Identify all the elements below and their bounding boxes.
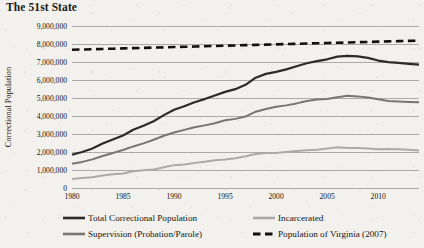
y-tick-label: 4,000,000 bbox=[37, 112, 68, 121]
legend-label: Total Correctional Population bbox=[88, 213, 197, 223]
x-tick-label: 1995 bbox=[217, 192, 232, 201]
y-axis-title: Correctional Population bbox=[4, 66, 13, 147]
chart-plot: 01,000,0002,000,0003,000,0004,000,0005,0… bbox=[0, 0, 424, 248]
data-series-group bbox=[72, 41, 419, 179]
y-axis-title-text: Correctional Population bbox=[4, 66, 13, 147]
series-line bbox=[72, 41, 419, 50]
x-tick-label: 1985 bbox=[115, 192, 130, 201]
legend-label: Incarcerated bbox=[278, 213, 324, 223]
y-tick-label: 6,000,000 bbox=[37, 76, 68, 85]
legend-label: Population of Virginia (2007) bbox=[278, 229, 387, 239]
y-tick-label: 2,000,000 bbox=[37, 148, 68, 157]
chart-page: The 51st State 01,000,0002,000,0003,000,… bbox=[0, 0, 424, 248]
y-tick-label: 9,000,000 bbox=[37, 22, 68, 31]
series-line bbox=[72, 56, 419, 155]
y-tick-label: 1,000,000 bbox=[37, 166, 68, 175]
legend-label: Supervision (Probation/Parole) bbox=[88, 229, 202, 239]
y-tick-label: 7,000,000 bbox=[37, 58, 68, 67]
y-axis-tick-labels: 01,000,0002,000,0003,000,0004,000,0005,0… bbox=[37, 22, 68, 193]
gridlines bbox=[72, 26, 419, 188]
y-tick-label: 8,000,000 bbox=[37, 40, 68, 49]
x-tick-label: 2010 bbox=[371, 192, 386, 201]
y-tick-label: 3,000,000 bbox=[37, 130, 68, 139]
series-line bbox=[72, 96, 419, 164]
x-tick-label: 1980 bbox=[64, 192, 79, 201]
y-tick-label: 5,000,000 bbox=[37, 94, 68, 103]
x-tick-label: 2005 bbox=[320, 192, 335, 201]
x-tick-label: 1990 bbox=[166, 192, 181, 201]
x-axis-tick-labels: 1980198519901995200020052010 bbox=[64, 192, 386, 201]
chart-legend: Total Correctional PopulationIncarcerate… bbox=[63, 213, 387, 239]
x-tick-label: 2000 bbox=[269, 192, 284, 201]
